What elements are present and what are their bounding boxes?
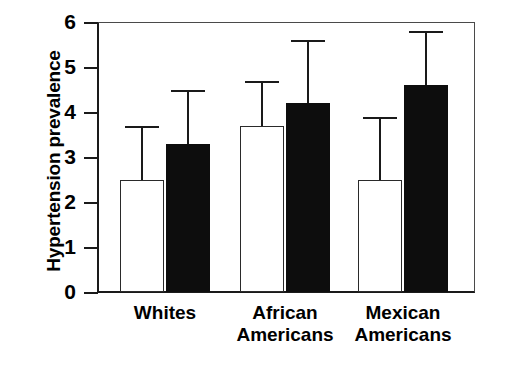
y-axis-tick: 6 <box>84 22 98 24</box>
error-bar-cap <box>171 90 205 92</box>
y-axis-tick: 5 <box>84 67 98 69</box>
y-axis-tick-label: 4 <box>64 101 76 122</box>
error-bar-line <box>261 81 263 126</box>
y-axis-title: Hypertension prevalence <box>43 11 65 311</box>
y-axis-tick: 2 <box>84 202 98 204</box>
chart-figure: Hypertension prevalence 0123456 WhitesAf… <box>0 0 508 378</box>
y-axis-tick: 0 <box>84 292 98 294</box>
bar-filled <box>166 144 210 293</box>
bar-open <box>240 126 284 293</box>
bar-open <box>358 180 402 293</box>
x-axis-label: Mexican Americans <box>323 302 483 346</box>
error-bar-line <box>425 31 427 85</box>
y-axis-tick-label: 6 <box>64 11 76 32</box>
y-axis-tick: 1 <box>84 247 98 249</box>
y-axis-tick: 4 <box>84 112 98 114</box>
error-bar-line <box>141 126 143 180</box>
error-bar-cap <box>363 117 397 119</box>
error-bar-cap <box>125 126 159 128</box>
error-bar-cap <box>291 40 325 42</box>
y-axis-tick-label: 0 <box>64 281 76 302</box>
error-bar-line <box>379 117 381 180</box>
y-axis-tick-label: 1 <box>64 236 76 257</box>
bar-open <box>120 180 164 293</box>
bar-filled <box>286 103 330 292</box>
y-axis-tick-label: 2 <box>64 191 76 212</box>
error-bar-cap <box>245 81 279 83</box>
error-bar-cap <box>409 31 443 33</box>
error-bar-line <box>307 40 309 103</box>
bar-filled <box>404 85 448 292</box>
y-axis-tick: 3 <box>84 157 98 159</box>
y-axis-tick-label: 3 <box>64 146 76 167</box>
y-axis-tick-label: 5 <box>64 56 76 77</box>
error-bar-line <box>187 90 189 144</box>
